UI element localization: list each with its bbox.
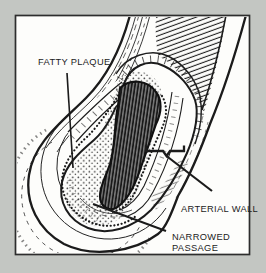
narrowed-passage-label-line1: NARROWED bbox=[172, 232, 230, 242]
narrowed-passage-label-line2: PASSAGE bbox=[172, 243, 218, 253]
arterial-wall-label: ARTERIAL WALL bbox=[181, 204, 258, 214]
fatty-plaque-label: FATTY PLAQUE bbox=[38, 57, 111, 67]
figure-frame: FATTY PLAQUE ARTERIAL WALL NARROWED PASS… bbox=[0, 0, 266, 273]
artery-diagram: FATTY PLAQUE ARTERIAL WALL NARROWED PASS… bbox=[0, 0, 266, 273]
